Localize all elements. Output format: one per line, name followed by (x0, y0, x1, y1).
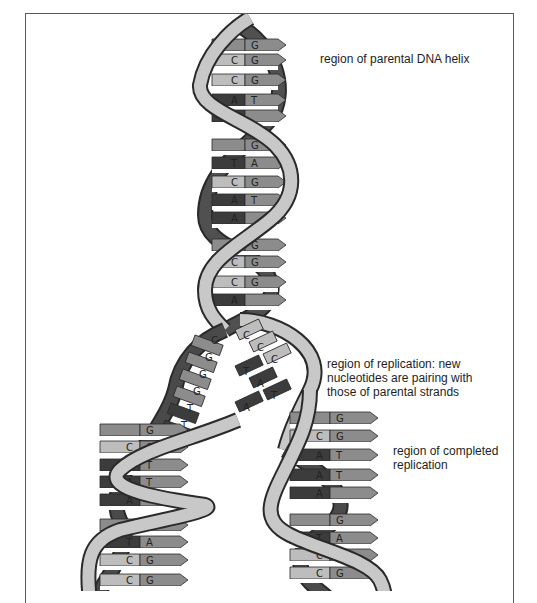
base-left (212, 74, 245, 86)
base-letter: T (335, 450, 343, 461)
base-letter: T (230, 158, 238, 169)
base-right (330, 487, 378, 499)
base-left (212, 139, 245, 151)
base-letter: A (251, 158, 258, 169)
base-letter: G (199, 369, 207, 380)
base-letter: A (231, 195, 238, 206)
base-letter: G (146, 555, 154, 566)
base-letter: T (186, 403, 194, 414)
base-left (212, 294, 245, 306)
base-letter: G (336, 515, 344, 526)
label-replication-region: region of replication: new nucleotides a… (327, 357, 472, 399)
base-letter: G (251, 277, 259, 288)
base-letter: G (146, 575, 154, 586)
base-letter: A (316, 450, 323, 461)
base-letter: T (250, 195, 258, 206)
base-letter: T (242, 366, 250, 377)
base-letter: G (146, 425, 154, 436)
base-letter: G (336, 568, 344, 579)
base-letter: A (243, 402, 250, 413)
base-letter: T (335, 470, 343, 481)
base-left (290, 469, 330, 481)
base-letter: A (316, 488, 323, 499)
base-letter: G (251, 257, 259, 268)
base-left (212, 276, 245, 288)
base-letter: A (257, 378, 264, 389)
base-left (290, 487, 330, 499)
base-letter: G (251, 55, 259, 66)
base-left (212, 176, 245, 188)
base-letter: C (231, 177, 238, 188)
base-left (290, 514, 330, 526)
base-letter: G (251, 75, 259, 86)
base-letter: C (271, 354, 278, 365)
base-right (245, 294, 286, 306)
base-letter: A (316, 470, 323, 481)
base-left (100, 574, 140, 586)
base-letter: C (126, 442, 133, 453)
base-letter: T (250, 95, 258, 106)
base-left (212, 212, 245, 224)
base-letter: C (211, 335, 218, 346)
base-letter: C (243, 330, 250, 341)
base-letter: G (205, 352, 213, 363)
base-left (212, 194, 245, 206)
base-letter: G (251, 140, 259, 151)
base-letter: G (336, 431, 344, 442)
base-letter: C (257, 342, 264, 353)
base-letter: C (126, 555, 133, 566)
base-letter: G (193, 386, 201, 397)
base-letter: G (336, 413, 344, 424)
base-letter: C (316, 568, 323, 579)
base-letter: C (231, 75, 238, 86)
base-letter: A (231, 295, 238, 306)
base-letter: G (251, 40, 259, 51)
base-letter: C (126, 575, 133, 586)
label-completed-region: region of completed replication (393, 444, 498, 472)
base-letter: C (231, 277, 238, 288)
base-letter: T (125, 537, 133, 548)
base-letter: A (146, 537, 153, 548)
base-letter: A (231, 213, 238, 224)
base-letter: A (336, 533, 343, 544)
label-parental-region: region of parental DNA helix (320, 52, 469, 66)
base-left (290, 567, 330, 579)
base-letter: G (251, 177, 259, 188)
base-letter: T (270, 390, 278, 401)
base-letter: C (316, 431, 323, 442)
base-letter: A (231, 95, 238, 106)
base-left (212, 157, 245, 169)
base-left (100, 424, 140, 436)
base-letter: C (231, 55, 238, 66)
base-left (100, 554, 140, 566)
